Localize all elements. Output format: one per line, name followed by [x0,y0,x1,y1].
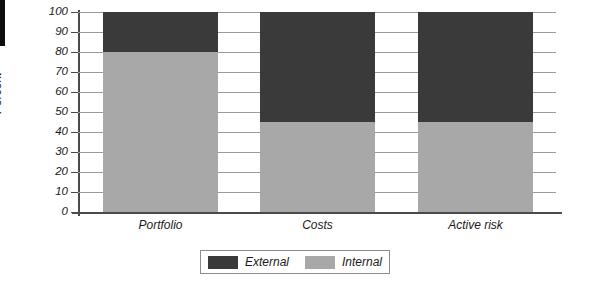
y-axis-tick-label: 80 [18,46,68,58]
y-axis-tick-mark [71,72,78,73]
y-axis-tick-label-text: 50 [24,106,68,118]
bar-group [103,12,218,212]
bar-group [260,12,375,212]
y-axis-tick-mark [71,92,78,93]
y-axis-tick-label: 90 [18,26,68,38]
legend-swatch-external [208,256,238,269]
y-axis-tick-label: 10 [18,186,68,198]
bar-group [418,12,533,212]
y-axis-tick-label: 60 [18,86,68,98]
y-axis-tick-mark [71,132,78,133]
y-axis-tick-label: 40 [18,126,68,138]
y-axis-tick-label-text: 100 [24,6,68,18]
y-axis-tick-label: 70 [18,66,68,78]
x-axis-category-label: Costs [238,218,398,232]
y-axis-tick-label-text: 70 [24,66,68,78]
bar-segment-external [260,12,375,122]
y-axis-tick-label: 100 [18,6,68,18]
y-axis-tick-label-text: 40 [24,126,68,138]
y-axis-tick-label-text: 30 [24,146,68,158]
y-axis-tick-label: 50 [18,106,68,118]
y-axis-tick-label-text: 60 [24,86,68,98]
bar-segment-internal [103,52,218,212]
scan-edge-artifact [0,0,5,46]
bar-segment-internal [418,122,533,212]
legend-item-external: External [208,255,289,269]
y-axis-tick-mark [71,12,78,13]
y-axis-tick-mark [71,152,78,153]
bar-segment-external [418,12,533,122]
legend-item-internal: Internal [305,255,382,269]
legend-label-external: External [245,255,289,269]
y-axis-tick-mark [71,112,78,113]
y-axis-tick-label-text: 20 [24,166,68,178]
x-axis-category-label: Portfolio [81,218,241,232]
legend-label-internal: Internal [342,255,382,269]
bar-segment-external [103,12,218,52]
y-axis-tick-mark [71,172,78,173]
chart-figure: Percent 1009080706050403020100 Portfolio… [0,0,591,288]
y-axis-tick-mark [71,212,78,213]
bar-segment-internal [260,122,375,212]
y-axis-tick-label-text: 0 [24,206,68,218]
y-axis-tick-label: 30 [18,146,68,158]
y-axis-tick-label: 0 [18,206,68,218]
x-axis-line [72,212,562,214]
x-axis-category-label: Active risk [396,218,556,232]
y-axis-tick-mark [71,52,78,53]
y-axis-tick-label-text: 80 [24,46,68,58]
y-axis-tick-label: 20 [18,166,68,178]
plot-area [78,12,556,212]
y-axis-tick-mark [71,192,78,193]
y-axis-tick-label-text: 90 [24,26,68,38]
y-axis-tick-label-text: 10 [24,186,68,198]
y-axis-tick-mark [71,32,78,33]
y-axis-title: Percent [0,72,4,113]
chart-legend: External Internal [200,250,390,274]
legend-swatch-internal [305,256,335,269]
